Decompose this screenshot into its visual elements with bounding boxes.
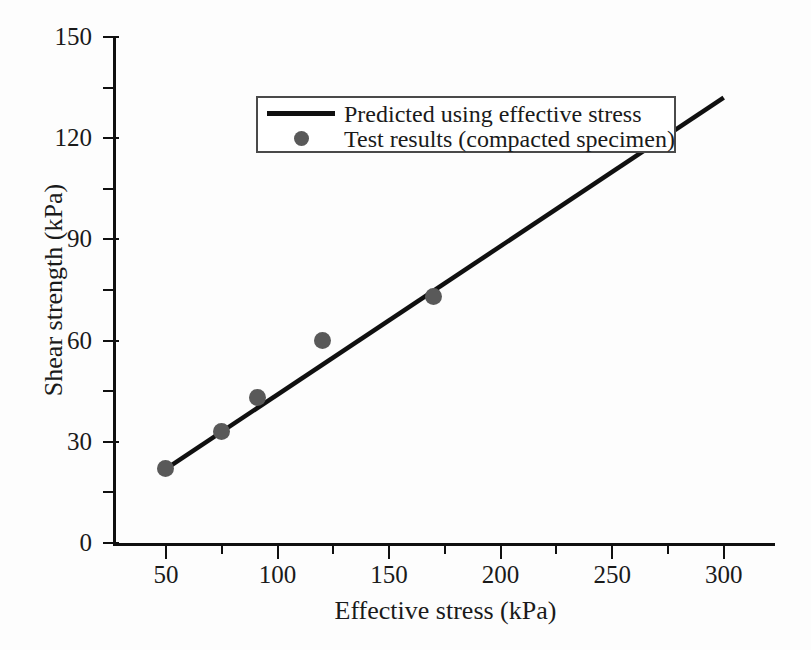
plot-area: 50100150200250300 0306090120150 Predicte… [116,37,775,543]
x-tick-300 [723,546,725,559]
y-minor-tick-75 [103,289,113,291]
x-tick-250 [611,546,613,559]
x-minor-tick-225 [555,546,557,554]
shear-strength-chart-figure: 50100150200250300 0306090120150 Predicte… [0,0,811,650]
legend-entry-predicted: Predicted using effective stress [258,100,674,127]
legend: Predicted using effective stress Test re… [256,96,676,153]
y-axis-title: Shear strength (kPa) [39,140,69,440]
x-tick-label-250: 250 [593,561,631,589]
x-tick-label-200: 200 [482,561,520,589]
x-tick-label-50: 50 [153,561,178,589]
y-tick-label-0: 0 [80,529,93,557]
y-tick-label-150: 150 [55,23,93,51]
x-minor-tick-125 [332,546,334,554]
x-tick-label-150: 150 [370,561,408,589]
y-minor-tick-45 [103,390,113,392]
x-tick-100 [277,546,279,559]
x-minor-tick-275 [667,546,669,554]
legend-label-test-results: Test results (compacted specimen) [344,127,675,151]
x-minor-tick-75 [221,546,223,554]
x-tick-label-100: 100 [259,561,297,589]
y-tick-label-30: 30 [67,428,92,456]
y-minor-tick-15 [103,491,113,493]
y-minor-tick-105 [103,188,113,190]
legend-line-swatch-icon [258,111,344,116]
x-tick-label-300: 300 [705,561,743,589]
legend-marker-swatch-icon [258,131,344,146]
legend-label-predicted: Predicted using effective stress [344,102,641,126]
y-tick-label-90: 90 [67,225,92,253]
legend-entry-test-results: Test results (compacted specimen) [258,125,674,152]
x-tick-150 [388,546,390,559]
x-tick-50 [165,546,167,559]
y-tick-label-60: 60 [67,327,92,355]
x-minor-tick-175 [444,546,446,554]
x-axis-title: Effective stress (kPa) [116,596,775,626]
y-minor-tick-135 [103,87,113,89]
data-point [314,332,331,349]
x-tick-200 [500,546,502,559]
